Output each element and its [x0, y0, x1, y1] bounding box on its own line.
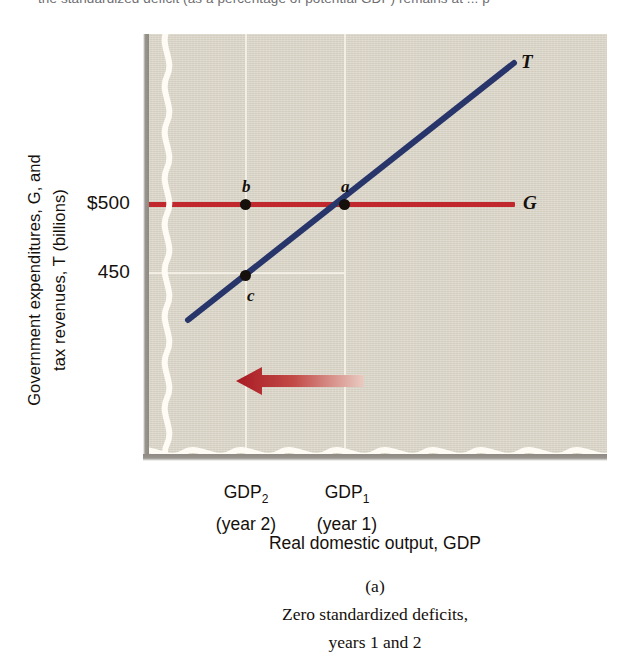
figure-caption: (a) Zero standardized deficits, years 1 … [140, 572, 610, 656]
y-axis-band [143, 34, 149, 461]
caption-panel-letter: (a) [140, 572, 610, 600]
series-label-t: T [521, 51, 533, 73]
recession-arrow-icon [236, 364, 376, 400]
x-tick-gdp1-year: (year 1) [317, 514, 377, 534]
y-axis-break-squiggle [153, 34, 183, 461]
x-tick-gdp2-name: GDP [224, 482, 262, 502]
y-axis-title-line-1: Government expenditures, G, and [25, 154, 43, 406]
running-body-text: the standardized deficit (as a percentag… [38, 0, 623, 7]
y-tick-label-500: $500 [52, 192, 130, 214]
x-tick-gdp1-subscript: 1 [363, 492, 370, 506]
x-axis-band [143, 454, 607, 461]
series-label-g: G [523, 192, 537, 214]
x-tick-gdp1: GDP1 (year 1) [287, 480, 407, 537]
caption-line-1: Zero standardized deficits, [140, 600, 610, 628]
data-point-b [240, 199, 251, 210]
x-tick-gdp2-subscript: 2 [262, 492, 269, 506]
data-point-c [240, 270, 251, 281]
x-axis-title: Real domestic output, GDP [140, 533, 610, 554]
chart-plot-frame: b a c T G [137, 31, 610, 468]
data-point-label-c: c [247, 286, 255, 306]
data-point-label-b: b [242, 177, 251, 197]
data-point-a [339, 199, 350, 210]
caption-line-2: years 1 and 2 [140, 628, 610, 656]
y-tick-label-450: 450 [52, 261, 130, 283]
x-tick-gdp2-year: (year 2) [216, 514, 276, 534]
data-point-label-a: a [341, 177, 350, 197]
chart-plot-area: b a c [143, 34, 607, 461]
x-tick-gdp1-name: GDP [325, 482, 363, 502]
